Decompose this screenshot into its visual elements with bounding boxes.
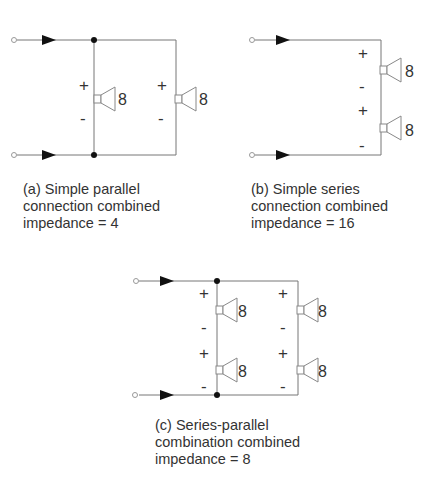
caption-line: connection combined — [251, 198, 388, 215]
caption-line: impedance = 16 — [251, 215, 388, 232]
arrow-icon — [42, 150, 56, 160]
plus-label: + — [278, 284, 288, 303]
arrow-icon — [276, 150, 290, 160]
arrow-icon — [276, 35, 290, 45]
caption-line: combination combined — [155, 434, 300, 451]
speaker-icon — [94, 87, 115, 111]
plus-label: + — [278, 344, 288, 363]
plus-label: + — [157, 76, 167, 95]
impedance-label: 8 — [405, 63, 414, 80]
junction-dot — [91, 37, 97, 43]
impedance-label: 8 — [199, 91, 208, 108]
diagram-c-series-parallel — [139, 281, 298, 395]
minus-label: - — [201, 318, 207, 337]
speaker-icon — [297, 298, 318, 322]
caption-line: impedance = 8 — [155, 451, 300, 468]
caption-a: (a) Simple parallel connection combined … — [23, 181, 160, 232]
minus-label: - — [280, 318, 286, 337]
minus-label: - — [158, 109, 164, 128]
minus-label: - — [359, 136, 365, 155]
caption-line: (c) Series-parallel — [155, 417, 300, 434]
speaker-icon — [216, 358, 237, 382]
speaker-icon — [216, 298, 237, 322]
minus-label: - — [280, 377, 286, 396]
plus-label: + — [358, 101, 368, 120]
speaker-icon — [380, 116, 401, 140]
input-terminal-icon — [12, 38, 17, 43]
speaker-icon — [380, 58, 401, 82]
plus-label: + — [79, 76, 89, 95]
minus-label: - — [359, 77, 365, 96]
minus-label: - — [201, 377, 207, 396]
junction-dot — [214, 278, 220, 284]
arrow-icon — [42, 35, 56, 45]
input-terminal-icon — [133, 393, 138, 398]
impedance-label: 8 — [238, 363, 247, 380]
impedance-label: 8 — [238, 303, 247, 320]
impedance-label: 8 — [405, 122, 414, 139]
wiring-diagrams: + - 8 + - 8 + - 8 + - 8 + - 8 + - 8 + - … — [0, 0, 438, 488]
speaker-icon — [175, 87, 196, 111]
junction-dot — [214, 392, 220, 398]
caption-line: connection combined — [23, 198, 160, 215]
impedance-label: 8 — [118, 91, 127, 108]
impedance-label: 8 — [318, 363, 327, 380]
input-terminal-icon — [250, 153, 255, 158]
caption-line: impedance = 4 — [23, 215, 160, 232]
caption-line: (b) Simple series — [251, 181, 388, 198]
impedance-label: 8 — [318, 303, 327, 320]
plus-label: + — [358, 44, 368, 63]
arrow-icon — [160, 276, 174, 286]
caption-b: (b) Simple series connection combined im… — [251, 181, 388, 232]
input-terminal-icon — [134, 279, 139, 284]
arrow-icon — [160, 390, 174, 400]
junction-dot — [91, 152, 97, 158]
input-terminal-icon — [250, 38, 255, 43]
minus-label: - — [80, 109, 86, 128]
caption-line: (a) Simple parallel — [23, 181, 160, 198]
input-terminal-icon — [12, 153, 17, 158]
caption-c: (c) Series-parallel combination combined… — [155, 417, 300, 468]
speaker-icon — [297, 358, 318, 382]
plus-label: + — [199, 344, 209, 363]
plus-label: + — [199, 284, 209, 303]
